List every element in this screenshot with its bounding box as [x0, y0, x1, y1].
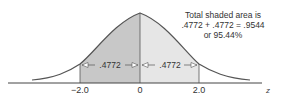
total-area-annotation: Total shaded area is .4772 + .4772 = .95… [170, 10, 276, 40]
annotation-line-2: .4772 + .4772 = .9544 [170, 20, 276, 30]
right-area-label: .4772 [159, 60, 180, 70]
annotation-line-3: or 95.44% [170, 30, 276, 40]
annotation-line-1: Total shaded area is [170, 10, 276, 20]
tick-0: 0 [137, 85, 142, 95]
z-axis-label: z [266, 86, 270, 95]
left-shaded-region [80, 13, 140, 83]
tick-neg-2: −2.0 [71, 85, 89, 95]
tick-pos-2: 2.0 [193, 85, 206, 95]
left-area-label: .4772 [99, 60, 120, 70]
